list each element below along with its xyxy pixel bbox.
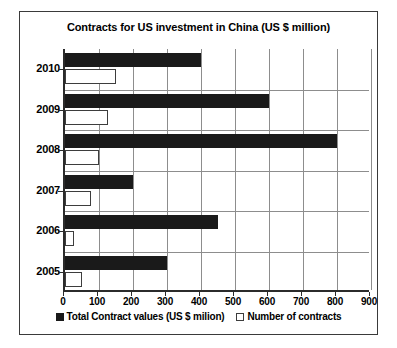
y-axis-label-2010: 2010 — [20, 62, 60, 74]
bar-group — [65, 130, 369, 171]
x-axis-tickmark — [97, 292, 98, 296]
x-axis-tickmark — [267, 292, 268, 296]
x-axis-tickmark — [199, 292, 200, 296]
bar-group — [65, 252, 369, 293]
bar-contract-value — [65, 215, 218, 229]
legend-item-2: Number of contracts — [236, 311, 341, 322]
y-axis-label-2009: 2009 — [20, 103, 60, 115]
chart-title: Contracts for US investment in China (US… — [20, 21, 377, 33]
legend-label: Number of contracts — [247, 311, 341, 322]
bar-contract-value — [65, 256, 167, 270]
bar-group — [65, 90, 369, 131]
gridline — [371, 49, 372, 290]
bar-contract-count — [65, 272, 82, 287]
y-axis-tickmark — [58, 110, 63, 111]
y-axis-tickmark — [58, 231, 63, 232]
x-axis-tickmark — [369, 292, 370, 296]
bar-groups — [65, 49, 369, 290]
bar-group — [65, 211, 369, 252]
x-axis-tickmark — [165, 292, 166, 296]
y-axis-tickmark — [58, 191, 63, 192]
x-axis-label-900: 900 — [349, 296, 389, 307]
y-axis-label-2007: 2007 — [20, 184, 60, 196]
x-axis-tickmark — [335, 292, 336, 296]
y-axis-label-2005: 2005 — [20, 265, 60, 277]
bar-contract-value — [65, 175, 133, 189]
bar-contract-value — [65, 134, 337, 148]
legend-item-1: Total Contract values (US $ milion) — [56, 311, 225, 322]
y-axis-label-2006: 2006 — [20, 224, 60, 236]
bar-contract-value — [65, 53, 201, 67]
legend-swatch-filled-icon — [56, 313, 64, 321]
bar-group — [65, 171, 369, 212]
y-axis-tickmark — [58, 272, 63, 273]
legend-label: Total Contract values (US $ milion) — [67, 311, 225, 322]
bar-contract-value — [65, 94, 269, 108]
x-axis-tickmark — [301, 292, 302, 296]
y-axis-tickmark — [58, 69, 63, 70]
bar-contract-count — [65, 231, 74, 246]
x-axis-tickmark — [233, 292, 234, 296]
bar-contract-count — [65, 191, 91, 206]
y-axis-label-2008: 2008 — [20, 143, 60, 155]
chart-frame: Contracts for US investment in China (US… — [19, 11, 378, 335]
y-axis-tickmark — [58, 150, 63, 151]
chart-legend: Total Contract values (US $ milion)Numbe… — [20, 311, 377, 322]
x-axis-tickmark — [131, 292, 132, 296]
bar-contract-count — [65, 110, 108, 125]
bar-group — [65, 49, 369, 90]
bar-contract-count — [65, 69, 116, 84]
legend-swatch-hollow-icon — [236, 313, 244, 321]
plot-area — [63, 49, 369, 292]
x-axis-tickmark — [63, 292, 64, 296]
bar-contract-count — [65, 150, 99, 165]
